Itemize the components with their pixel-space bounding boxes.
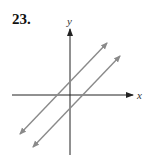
x-axis-label: x (136, 89, 142, 101)
upper-line (20, 43, 107, 134)
coordinate-plane: y x (0, 0, 154, 161)
lower-line (33, 56, 120, 147)
y-axis-label: y (66, 15, 72, 27)
